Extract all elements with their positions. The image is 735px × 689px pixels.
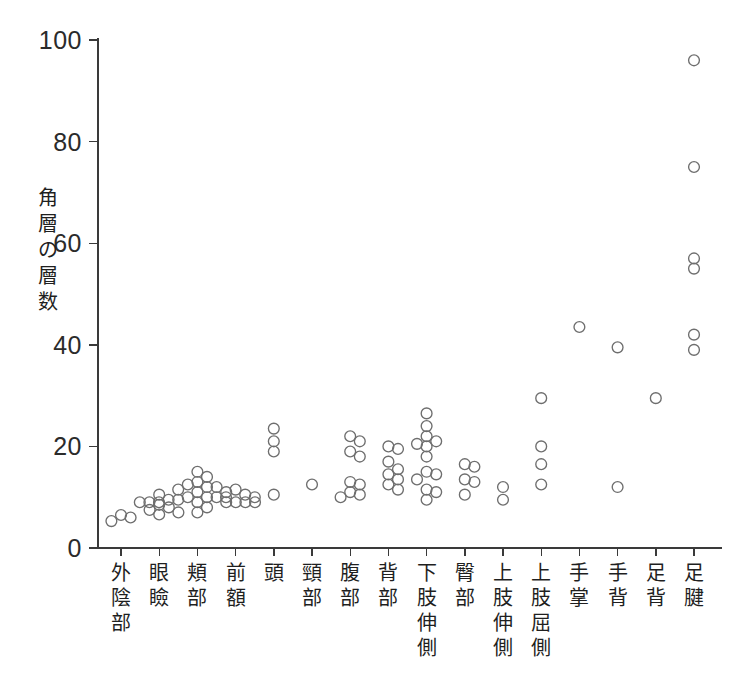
data-point — [469, 477, 480, 488]
data-point — [536, 479, 547, 490]
x-tick-label-char: 部 — [455, 586, 475, 610]
x-tick-label-char: 手 — [608, 561, 628, 585]
data-point — [689, 55, 700, 66]
data-point — [354, 451, 365, 462]
x-tick-label-char: 肢 — [531, 586, 551, 610]
y-tick-label: 40 — [53, 331, 82, 359]
y-tick-label: 100 — [39, 26, 82, 54]
data-point — [469, 461, 480, 472]
x-tick-label-char: 腱 — [684, 586, 704, 610]
data-point — [498, 494, 509, 505]
y-axis-title-char: 角 — [38, 186, 58, 210]
scatter-plot-figure: 020406080100 角層の層数 外陰部眼瞼頬部前額頭頸部腹部背部下肢伸側臀… — [0, 0, 735, 689]
data-point — [412, 474, 423, 485]
x-tick-label-char: 側 — [493, 636, 513, 660]
x-tick-label-char: 足 — [646, 561, 666, 585]
data-point — [393, 444, 404, 455]
x-tick-label-char: 腹 — [340, 561, 360, 585]
x-axis-category-labels: 外陰部眼瞼頬部前額頭頸部腹部背部下肢伸側臀部上肢伸側上肢屈側手掌手背足背足腱 — [111, 561, 704, 660]
x-tick-label-char: 頬 — [187, 561, 207, 585]
data-point — [574, 322, 585, 333]
x-tick-label-char: 肢 — [417, 586, 437, 610]
data-point — [268, 436, 279, 447]
x-tick-label-char: 瞼 — [149, 586, 169, 610]
data-point — [192, 507, 203, 518]
x-tick-label-char: 側 — [417, 636, 437, 660]
x-tick-label-char: 臀 — [455, 561, 475, 585]
x-tick-label-char: 足 — [684, 561, 704, 585]
x-tick-label-char: 額 — [226, 586, 246, 610]
x-tick-label-char: 外 — [111, 561, 131, 585]
x-tick-label-char: 手 — [569, 561, 589, 585]
data-point — [125, 512, 136, 523]
x-tick-label-char: 肢 — [493, 586, 513, 610]
data-point — [268, 446, 279, 457]
x-tick-label-char: 前 — [226, 561, 246, 585]
data-point-group — [106, 55, 699, 527]
data-point — [354, 489, 365, 500]
x-tick-label-char: 部 — [302, 586, 322, 610]
data-point — [421, 408, 432, 419]
data-point — [173, 507, 184, 518]
y-axis-title-char: の — [38, 238, 58, 262]
x-tick-label-char: 眼 — [149, 561, 169, 585]
data-point — [335, 492, 346, 503]
data-point — [431, 469, 442, 480]
data-point — [612, 482, 623, 493]
x-tick-label-char: 掌 — [569, 586, 589, 610]
data-point — [689, 344, 700, 355]
data-point — [612, 342, 623, 353]
data-point — [431, 487, 442, 498]
x-tick-label-char: 屈 — [531, 611, 551, 635]
y-tick-label: 0 — [68, 534, 82, 562]
data-point — [689, 263, 700, 274]
data-point — [689, 329, 700, 340]
data-point — [383, 456, 394, 467]
x-tick-label-char: 背 — [646, 586, 666, 610]
x-tick-group — [121, 548, 694, 556]
x-tick-label-char: 伸 — [493, 611, 513, 635]
data-point — [421, 494, 432, 505]
data-point — [689, 162, 700, 173]
x-tick-label-char: 背 — [378, 561, 398, 585]
y-tick-label: 20 — [53, 432, 82, 460]
x-tick-label-char: 上 — [493, 561, 513, 585]
data-point — [173, 484, 184, 495]
data-point — [536, 393, 547, 404]
x-tick-label-char: 部 — [378, 586, 398, 610]
x-tick-label-char: 頭 — [264, 561, 284, 585]
x-tick-label-char: 背 — [608, 586, 628, 610]
x-tick-label-char: 伸 — [417, 611, 437, 635]
x-tick-label-char: 側 — [531, 636, 551, 660]
data-point — [106, 516, 117, 527]
data-point — [689, 253, 700, 264]
data-point — [498, 482, 509, 493]
y-axis-title-char: 層 — [38, 212, 58, 236]
data-point — [421, 421, 432, 432]
y-axis-title-char: 数 — [38, 290, 58, 314]
x-tick-label-char: 下 — [417, 561, 437, 585]
x-tick-label-char: 部 — [111, 611, 131, 635]
data-point — [393, 484, 404, 495]
x-tick-label-char: 陰 — [111, 586, 131, 610]
y-axis-title-char: 層 — [38, 264, 58, 288]
data-point — [536, 441, 547, 452]
data-point — [421, 441, 432, 452]
data-point — [268, 423, 279, 434]
x-tick-label-char: 上 — [531, 561, 551, 585]
data-point — [354, 479, 365, 490]
data-point — [650, 393, 661, 404]
x-tick-label-char: 頸 — [302, 561, 322, 585]
plot-canvas: 020406080100 角層の層数 外陰部眼瞼頬部前額頭頸部腹部背部下肢伸側臀… — [0, 0, 735, 689]
y-axis-title: 角層の層数 — [38, 186, 58, 314]
x-tick-label-char: 部 — [187, 586, 207, 610]
y-tick-label: 80 — [53, 128, 82, 156]
data-point — [459, 489, 470, 500]
x-tick-label-char: 部 — [340, 586, 360, 610]
data-point — [307, 479, 318, 490]
data-point — [354, 436, 365, 447]
data-point — [536, 459, 547, 470]
data-point — [268, 489, 279, 500]
data-point — [421, 451, 432, 462]
